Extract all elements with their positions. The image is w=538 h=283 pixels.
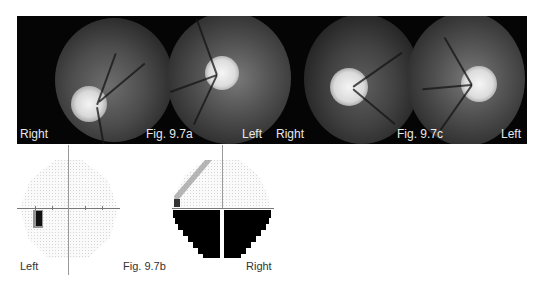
visual-field-right: Fig. 9.7b Right <box>0 0 290 283</box>
label-left-c: Left <box>501 127 521 141</box>
visual-field-right-plot <box>0 0 290 283</box>
caption-fig-9-7b: Fig. 9.7b <box>123 260 166 272</box>
vertical-axis <box>222 145 223 208</box>
optic-disc <box>330 68 368 106</box>
label-right-field: Right <box>246 260 272 272</box>
horizontal-axis <box>172 208 274 209</box>
caption-fig-9-7c: Fig. 9.7c <box>397 127 443 141</box>
